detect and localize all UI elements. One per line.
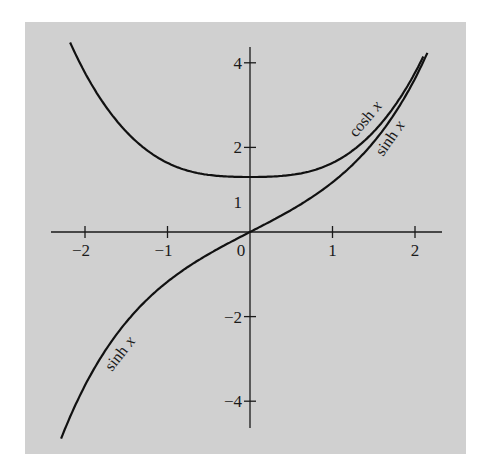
x-tick-label: 0 (237, 241, 246, 260)
y-tick-label: −2 (224, 308, 242, 327)
x-tick-label: −2 (72, 241, 90, 260)
chart: −2−101242−2−41 coshx sinhx sinhx (0, 0, 489, 472)
cosh-label: coshx (345, 97, 385, 140)
y-label-one: 1 (234, 193, 243, 212)
sinh-label-lower: sinhx (101, 333, 138, 374)
y-tick-label: 4 (234, 54, 243, 73)
y-tick-label: 2 (234, 138, 243, 157)
y-tick-label: −4 (224, 392, 243, 411)
x-tick-label: −1 (154, 241, 172, 260)
x-tick-label: 2 (411, 241, 420, 260)
x-tick-label: 1 (328, 241, 337, 260)
